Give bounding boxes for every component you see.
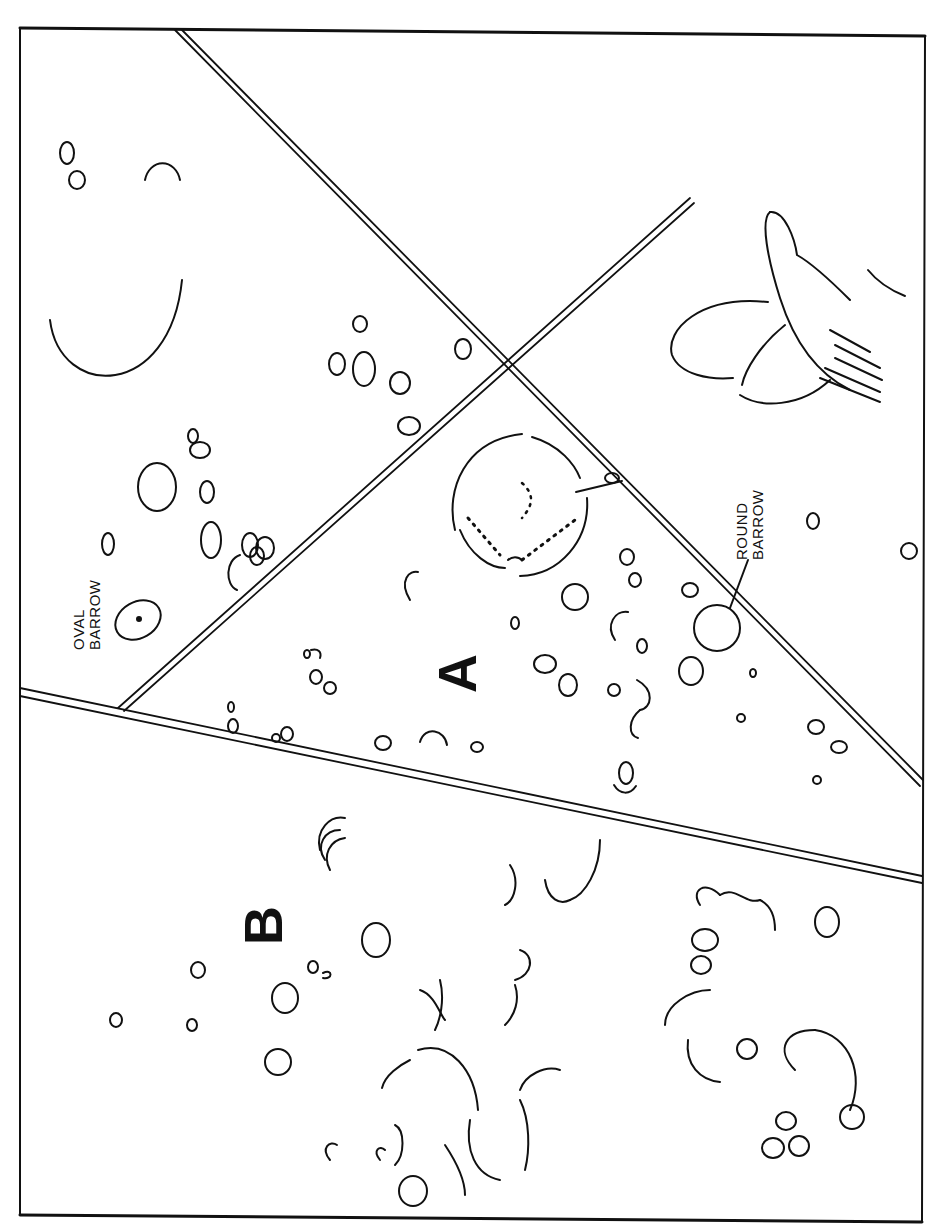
oval-barrow-label-line1: OVAL — [71, 580, 87, 651]
field-a-features — [228, 434, 847, 793]
round-barrow — [694, 560, 748, 651]
oval-barrow-label: OVAL BARROW — [71, 580, 103, 651]
field-boundaries — [20, 30, 923, 883]
oval-barrow-label-line2: BARROW — [87, 580, 103, 651]
round-barrow-label: ROUND BARROW — [734, 490, 766, 561]
upper-right-features — [671, 212, 917, 559]
cropmark-diagram: OVAL BARROW ROUND BARROW A B — [0, 0, 945, 1226]
field-b-label: B — [232, 906, 294, 945]
round-barrow-label-line1: ROUND — [734, 490, 750, 561]
upper-left-features — [50, 142, 471, 590]
field-a-label: A — [426, 654, 488, 693]
diagram-drawing — [0, 0, 945, 1226]
round-barrow-label-line2: BARROW — [750, 490, 766, 561]
oval-barrow — [108, 592, 168, 647]
field-b-features — [110, 818, 864, 1206]
frame — [20, 28, 925, 1222]
